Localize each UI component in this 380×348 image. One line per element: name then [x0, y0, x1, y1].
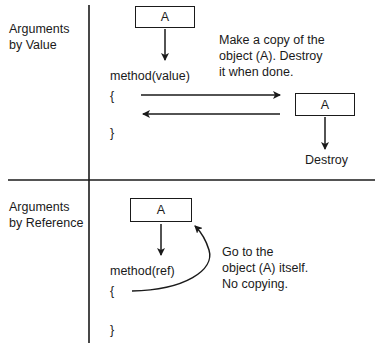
label-line: by Value — [9, 37, 69, 53]
open-brace: { — [110, 88, 114, 104]
copy-a-box: A — [295, 93, 355, 116]
ref-object-a-box: A — [130, 198, 192, 222]
note-line: object (A). Destroy — [219, 48, 325, 64]
method-value-label: method(value) — [110, 68, 190, 84]
note-line: it when done. — [219, 64, 325, 80]
object-a-box: A — [135, 6, 195, 28]
arrow-reference-curve — [132, 226, 210, 291]
section-label-by-value: Arguments by Value — [9, 21, 69, 53]
label-line: by Reference — [9, 215, 83, 231]
note-line: Make a copy of the — [219, 32, 325, 48]
note-line: object (A) itself. — [222, 260, 308, 276]
close-brace: } — [110, 125, 114, 141]
method-ref-label: method(ref) — [110, 263, 175, 279]
destroy-label: Destroy — [305, 152, 348, 168]
open-brace: { — [110, 283, 114, 299]
section-label-by-reference: Arguments by Reference — [9, 199, 83, 231]
label-line: Arguments — [9, 199, 83, 215]
close-brace: } — [110, 322, 114, 338]
note-line: Go to the — [222, 244, 308, 260]
copy-note: Make a copy of the object (A). Destroy i… — [219, 32, 325, 80]
label-line: Arguments — [9, 21, 69, 37]
note-line: No copying. — [222, 276, 308, 292]
reference-note: Go to the object (A) itself. No copying. — [222, 244, 308, 292]
